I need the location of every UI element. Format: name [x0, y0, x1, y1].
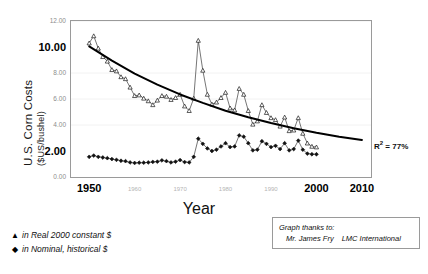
triangle-marker-icon: ▲: [8, 231, 22, 240]
x-axis-title: Year: [0, 200, 428, 218]
diamond-marker-icon: ◆: [8, 245, 22, 254]
x-tick-label-1950: 1950: [77, 183, 101, 194]
chart-container: U.S. Corn Costs ($US/bushel) 10.002.0012…: [0, 0, 428, 274]
y-tick-label-2.00: 2.00: [20, 146, 66, 157]
x-tick-label-2000: 2000: [304, 183, 328, 194]
x-tick-label-1980: 1980: [219, 186, 232, 192]
legend-item-real: ▲ in Real 2000 constant $: [8, 228, 111, 242]
x-tick-label-2010: 2010: [350, 183, 374, 194]
legend-label-nominal: in Nominal, historical $: [22, 244, 108, 254]
y-tick-label-10.00: 10.00: [20, 42, 66, 53]
r-squared-value: = 77%: [383, 142, 408, 151]
plot-svg: [71, 21, 371, 177]
x-axis-title-label: Year: [183, 200, 215, 217]
y-axis-title-units: ($US/bushel): [36, 111, 46, 166]
credit-person: Mr. James Fry: [286, 234, 334, 243]
credit-line-2: Mr. James FryLMC International: [279, 233, 414, 244]
x-tick-label-1970: 1970: [173, 186, 186, 192]
r-squared-annotation: R2 = 77%: [374, 140, 408, 151]
legend-label-real: in Real 2000 constant $: [22, 230, 111, 240]
x-tick-label-1990: 1990: [264, 186, 277, 192]
plot-area: [70, 20, 372, 178]
y-tick-label-4.00: 4.00: [20, 122, 66, 129]
credit-org: LMC International: [342, 234, 401, 243]
y-tick-label-0.00: 0.00: [20, 174, 66, 181]
x-tick-label-1960: 1960: [128, 186, 141, 192]
legend-item-nominal: ◆ in Nominal, historical $: [8, 242, 111, 256]
y-tick-label-8.00: 8.00: [20, 70, 66, 77]
credit-box: Graph thanks to: Mr. James FryLMC Intern…: [272, 217, 420, 249]
y-tick-label-12.00: 12.00: [20, 18, 66, 25]
y-tick-label-6.00: 6.00: [20, 96, 66, 103]
credit-line-1: Graph thanks to:: [279, 222, 414, 233]
chart-legend: ▲ in Real 2000 constant $ ◆ in Nominal, …: [8, 228, 111, 256]
